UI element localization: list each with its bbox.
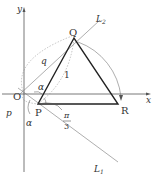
line-L2 [20, 20, 100, 94]
x-axis-label: x [146, 95, 151, 105]
angle-3-label: 3 [64, 122, 69, 131]
angle-alpha-top-label: α [38, 82, 44, 92]
y-axis-label: y [16, 4, 23, 14]
length-p-label: p [6, 108, 12, 118]
rotation-arc [78, 42, 121, 97]
origin-label: O [13, 91, 21, 102]
line-L2-label: L2 [95, 14, 106, 25]
point-Q-label: Q [69, 27, 77, 38]
angle-alpha-bottom-label: α [26, 118, 32, 128]
arc-p [23, 94, 38, 104]
diagram-canvas: y x O P Q R L2 L1 q 1 p α α π 3 [0, 0, 154, 179]
angle-alpha-bottom-arc [28, 100, 30, 114]
y-axis-arrow-icon [23, 7, 26, 12]
point-R-label: R [121, 105, 129, 116]
rotation-arrow-icon [119, 95, 123, 101]
geometry-diagram: y x O P Q R L2 L1 q 1 p α α π 3 [0, 0, 154, 179]
length-1-label: 1 [64, 70, 70, 80]
point-P-label: P [35, 107, 42, 118]
length-q-label: q [41, 56, 47, 66]
angle-pi-label: π [63, 111, 70, 120]
line-L1-label: L1 [93, 164, 104, 175]
